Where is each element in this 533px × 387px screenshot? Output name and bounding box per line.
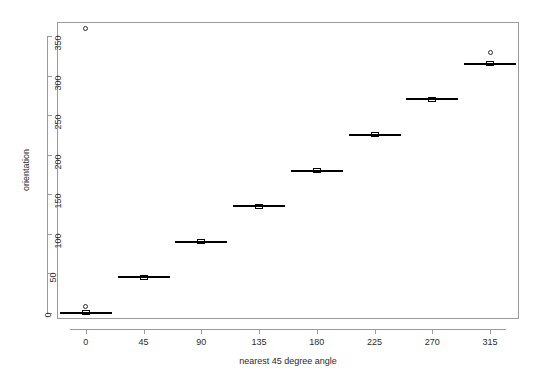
x-axis-tick xyxy=(144,329,145,334)
median-line xyxy=(196,241,206,243)
x-axis-tick-label: 0 xyxy=(83,338,88,347)
y-axis-tick xyxy=(47,36,52,37)
y-axis-tick xyxy=(47,234,52,235)
x-axis-tick-label: 45 xyxy=(139,338,149,347)
x-axis-title: nearest 45 degree angle xyxy=(239,357,337,366)
x-axis-tick xyxy=(432,329,433,334)
y-axis-tick xyxy=(47,76,52,77)
y-axis-tick-label: 150 xyxy=(54,194,63,209)
y-axis-line xyxy=(47,36,48,312)
outlier-point xyxy=(83,26,88,31)
y-axis-tick-label: 250 xyxy=(54,115,63,130)
boxplot-figure: 04590135180225270315 0501001502002503003… xyxy=(0,0,533,387)
y-axis-tick xyxy=(47,194,52,195)
x-axis-tick xyxy=(259,329,260,334)
x-axis-tick xyxy=(375,329,376,334)
y-axis-tick-label: 100 xyxy=(54,233,63,248)
x-axis-tick-label: 180 xyxy=(309,338,324,347)
x-axis-tick xyxy=(201,329,202,334)
median-line xyxy=(485,63,495,65)
median-line xyxy=(427,98,437,100)
median-line xyxy=(81,312,91,314)
y-axis-tick xyxy=(47,155,52,156)
y-axis-tick-label: 50 xyxy=(49,273,58,283)
y-axis-tick-label: 200 xyxy=(54,154,63,169)
outlier-point xyxy=(488,50,493,55)
y-axis-tick-label: 350 xyxy=(54,36,63,51)
median-line xyxy=(312,170,322,172)
x-axis-tick-label: 315 xyxy=(483,338,498,347)
y-axis-tick xyxy=(47,115,52,116)
outlier-point xyxy=(83,304,88,309)
x-axis-tick-label: 225 xyxy=(367,338,382,347)
y-axis-title: orientation xyxy=(22,149,31,191)
plot-area xyxy=(57,22,519,319)
x-axis-tick xyxy=(86,329,87,334)
x-axis-line xyxy=(70,329,506,330)
x-axis-tick xyxy=(317,329,318,334)
median-line xyxy=(370,134,380,136)
x-axis-tick xyxy=(490,329,491,334)
x-axis-tick-label: 135 xyxy=(252,338,267,347)
x-axis-tick-label: 90 xyxy=(196,338,206,347)
y-axis-tick-label: 0 xyxy=(44,312,53,317)
y-axis-tick-label: 300 xyxy=(54,75,63,90)
median-line xyxy=(254,205,264,207)
median-line xyxy=(139,276,149,278)
x-axis-tick-label: 270 xyxy=(425,338,440,347)
